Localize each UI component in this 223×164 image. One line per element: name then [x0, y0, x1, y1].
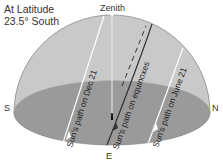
north-label: N: [212, 103, 219, 113]
celestial-dome-diagram: Sun's path on Dec 21 Sun's path on equin…: [0, 0, 223, 164]
south-label: S: [4, 103, 10, 113]
observer-figure: [111, 115, 113, 120]
east-label: E: [106, 151, 112, 161]
zenith-label: Zenith: [100, 3, 125, 13]
